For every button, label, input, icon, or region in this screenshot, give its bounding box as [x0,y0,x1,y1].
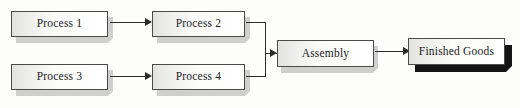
edge-process2-merge-line [246,22,266,23]
edge-process3-process4-arrowhead [145,72,152,80]
process-flow-diagram: Process 1 Process 2 Process 3 Process 4 … [0,0,520,108]
edge-process3-process4-line [110,76,146,77]
node-finished-goods-label: Finished Goods [419,46,494,58]
node-process-3[interactable]: Process 3 [11,64,108,90]
edge-process1-process2-line [110,22,146,23]
node-process-4-label: Process 4 [176,71,222,83]
node-process-1[interactable]: Process 1 [11,11,108,37]
node-assembly[interactable]: Assembly [277,40,374,67]
edge-merge-assembly-arrowhead [270,49,277,57]
node-finished-goods[interactable]: Finished Goods [408,38,505,65]
node-assembly-label: Assembly [302,48,350,60]
node-process-1-label: Process 1 [37,18,83,30]
edge-merge-vertical-line [265,22,266,77]
node-process-3-label: Process 3 [37,71,83,83]
node-process-4[interactable]: Process 4 [152,64,245,90]
edge-process1-process2-arrowhead [145,18,152,26]
node-process-2[interactable]: Process 2 [152,11,245,37]
edge-process4-merge-line [246,76,266,77]
node-process-2-label: Process 2 [176,18,222,30]
